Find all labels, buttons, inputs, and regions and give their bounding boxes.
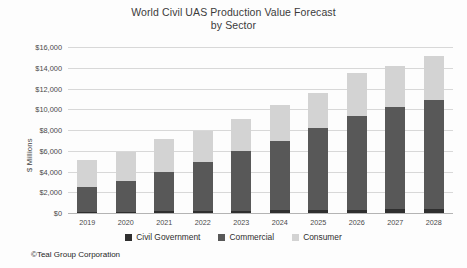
legend-label: Commercial [229, 232, 274, 242]
y-axis-tick-label: $0 [6, 209, 62, 218]
chart-container: World Civil UAS Production Value Forecas… [0, 0, 467, 268]
x-axis-tick-label: 2027 [380, 218, 410, 227]
legend-item[interactable]: Consumer [292, 232, 342, 242]
legend-item[interactable]: Civil Government [125, 232, 200, 242]
x-axis-tick-label: 2026 [342, 218, 372, 227]
legend-swatch-icon [125, 234, 132, 241]
y-axis-tick-label: $16,000 [6, 43, 62, 52]
x-axis-tick-label: 2024 [265, 218, 295, 227]
legend-swatch-icon [218, 234, 225, 241]
y-axis-tick-label: $10,000 [6, 105, 62, 114]
y-axis-tick-label: $4,000 [6, 168, 62, 177]
legend-item[interactable]: Commercial [218, 232, 274, 242]
x-axis-tick-label: 2025 [303, 218, 333, 227]
legend-label: Civil Government [136, 232, 200, 242]
x-axis-tick-label: 2021 [149, 218, 179, 227]
legend-label: Consumer [303, 232, 342, 242]
x-axis-tick-label: 2022 [188, 218, 218, 227]
x-axis-tick-labels: 2019202020212022202320242025202620272028 [68, 0, 453, 268]
x-axis-tick-label: 2023 [226, 218, 256, 227]
footer-credit: ©Teal Group Corporation [31, 250, 120, 259]
x-axis-tick-label: 2020 [111, 218, 141, 227]
legend-swatch-icon [292, 234, 299, 241]
x-axis-tick-label: 2028 [419, 218, 449, 227]
x-axis-tick-label: 2019 [72, 218, 102, 227]
y-axis-tick-label: $14,000 [6, 64, 62, 73]
y-axis-tick-label: $2,000 [6, 188, 62, 197]
y-axis-tick-label: $8,000 [6, 126, 62, 135]
chart-legend: Civil GovernmentCommercialConsumer [0, 232, 467, 242]
y-axis-tick-label: $6,000 [6, 147, 62, 156]
y-axis-tick-label: $12,000 [6, 85, 62, 94]
